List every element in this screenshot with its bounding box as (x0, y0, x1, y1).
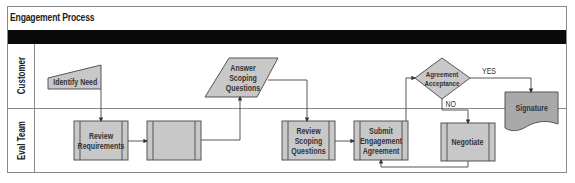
label-submit-engagement-agreement: Submit Engagement Agreement (355, 123, 407, 159)
label-review-requirements: Review Requirements (78, 127, 124, 155)
label-negotiate: Negotiate (447, 135, 489, 149)
edge-label-no: NO (443, 99, 459, 109)
edge-label-yes: YES (478, 66, 500, 76)
label-submit-scoping-questionaire (150, 123, 198, 159)
label-identify-need: Identify Need (46, 74, 104, 89)
label-answer-scoping-questions: Answer Scoping Questions (220, 60, 266, 96)
label-agreement-acceptance: Agreement Acceptance (418, 68, 466, 90)
label-signature: Signature (507, 101, 557, 115)
label-review-scoping-questions: Review Scoping Questions (285, 123, 332, 159)
